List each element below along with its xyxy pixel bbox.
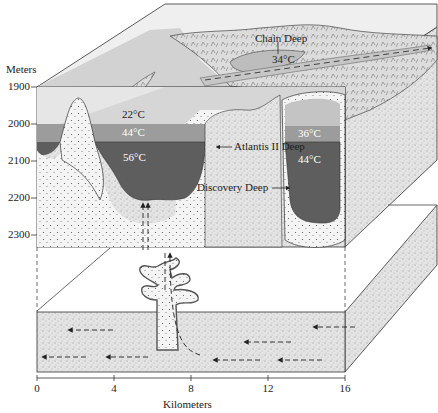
y-axis-label: Meters [6,63,37,75]
y-tick-1900: 1900 [0,80,30,92]
x-axis [37,375,345,381]
lower-block-front-face [37,312,345,372]
inter-deep-ridge [205,95,282,247]
x-tick-16: 16 [335,382,355,394]
discovery-deep-label: Discovery Deep [197,181,268,193]
x-tick-0: 0 [27,382,47,394]
atlantis-mid-temp: 44°C [122,126,145,138]
y-axis [31,87,37,235]
atlantis-upper-temp: 22°C [122,108,145,120]
x-tick-8: 8 [181,382,201,394]
x-tick-4: 4 [104,382,124,394]
chain-deep-label: Chain Deep [255,32,307,44]
x-axis-label: Kilometers [163,398,212,410]
y-tick-2100: 2100 [0,154,30,166]
discovery-water [285,99,340,126]
discovery-deep-temp: 44°C [298,153,321,165]
y-tick-2300: 2300 [0,228,30,240]
y-tick-2000: 2000 [0,117,30,129]
y-tick-2200: 2200 [0,191,30,203]
chain-deep-temp: 34°C [272,53,295,65]
atlantis-deep-label: Atlantis II Deep [234,140,305,152]
discovery-upper-temp: 36°C [298,127,321,139]
atlantis-deep-temp: 56°C [123,151,146,163]
block-diagram [0,0,438,413]
x-tick-12: 12 [258,382,278,394]
